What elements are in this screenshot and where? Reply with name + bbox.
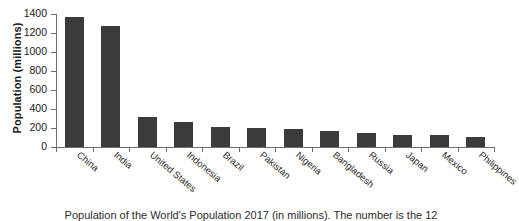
bar (284, 129, 303, 147)
y-tick-mark (51, 71, 56, 72)
plot-area: 0200400600800100012001400 (56, 10, 494, 147)
y-axis-title: Population (millions) (11, 3, 23, 153)
x-tick-label: Mexico (440, 149, 470, 177)
bar (138, 117, 157, 147)
bar (357, 133, 376, 147)
y-tick-label: 800 (29, 64, 47, 76)
x-tick-label: India (112, 149, 135, 171)
figure-caption: Population of the World's Population 201… (0, 209, 502, 221)
y-tick-mark (51, 109, 56, 110)
x-tick-mark (494, 147, 495, 152)
bar (430, 135, 449, 147)
bar (101, 26, 120, 147)
y-tick-mark (51, 128, 56, 129)
y-tick-mark (51, 52, 56, 53)
bar (65, 17, 84, 147)
x-tick-label: Philippines (477, 149, 519, 187)
y-tick-label: 1400 (24, 7, 47, 19)
bar (466, 137, 485, 147)
y-tick-mark (51, 33, 56, 34)
bar (174, 122, 193, 147)
y-tick-label: 400 (29, 102, 47, 114)
bar (320, 131, 339, 147)
x-tick-label: Japan (404, 149, 431, 174)
y-axis-line (56, 14, 57, 147)
bar (247, 128, 266, 147)
y-tick-mark (51, 90, 56, 91)
y-tick-label: 0 (41, 140, 47, 152)
x-tick-label: Brazil (221, 149, 246, 173)
x-tick-label: China (75, 149, 101, 173)
bar (393, 135, 412, 147)
y-tick-label: 1000 (24, 45, 47, 57)
x-tick-label: Nigeria (294, 149, 324, 177)
y-tick-label: 200 (29, 121, 47, 133)
y-tick-mark (51, 14, 56, 15)
x-axis-labels: ChinaIndiaUnited StatesIndonesiaBrazilPa… (56, 149, 494, 209)
bar (211, 127, 230, 147)
y-tick-label: 1200 (24, 26, 47, 38)
x-tick-label: Russia (367, 149, 396, 176)
y-tick-label: 600 (29, 83, 47, 95)
x-tick-label: Pakistan (258, 149, 293, 181)
